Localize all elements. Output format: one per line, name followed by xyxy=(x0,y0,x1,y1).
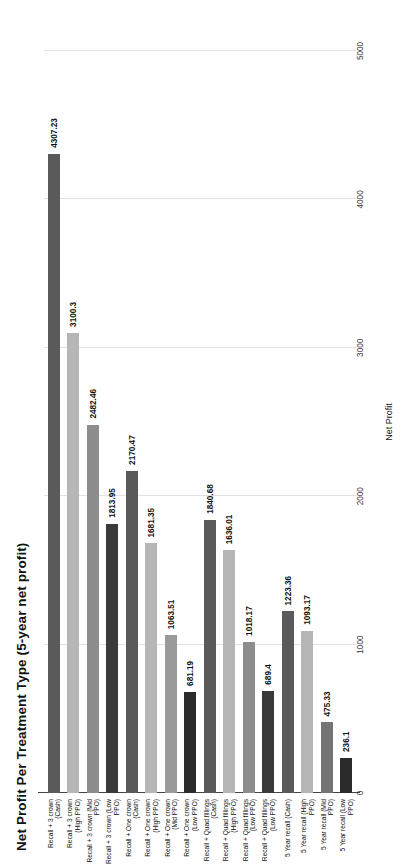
axis-tick-label: 4000 xyxy=(356,190,365,208)
bar-value-label: 1093.17 xyxy=(303,595,312,625)
axis-tick-label: 2000 xyxy=(356,487,365,505)
bar xyxy=(165,635,177,793)
bar-row: 236.1 xyxy=(340,51,352,793)
axis-tick-label: 3000 xyxy=(356,339,365,357)
figure-rotation-wrapper: Net Profit Per Treatment Type (5-year ne… xyxy=(0,0,412,865)
bar-value-label: 475.33 xyxy=(322,691,331,716)
bar xyxy=(126,471,138,793)
bar-row: 1223.36 xyxy=(282,51,294,793)
category-label: Recall + One crown (Low PPO) xyxy=(183,799,198,865)
bar-row: 3100.3 xyxy=(67,51,79,793)
bar-row: 1840.68 xyxy=(204,51,216,793)
bar xyxy=(340,758,352,793)
category-label: Recall + Quad fillings (Low PPO) xyxy=(261,799,276,865)
bar xyxy=(145,544,157,794)
axis-tick-label: 0 xyxy=(356,791,365,796)
bar-value-label: 1813.95 xyxy=(108,488,117,518)
plot-area: 236.1475.331093.171223.36689.41018.17163… xyxy=(44,51,356,793)
bar-row: 2170.47 xyxy=(126,51,138,793)
bar-value-label: 681.19 xyxy=(186,661,195,686)
bar xyxy=(301,631,313,793)
bar xyxy=(243,642,255,793)
bar xyxy=(48,154,60,793)
category-label: 5 Year recall (Cash) xyxy=(284,799,291,865)
bar-value-label: 1840.68 xyxy=(205,484,214,514)
bar xyxy=(204,520,216,793)
bar-row: 1813.95 xyxy=(106,51,118,793)
chart-title: Net Profit Per Treatment Type (5-year ne… xyxy=(14,543,29,851)
bar xyxy=(282,611,294,793)
bar-row: 681.19 xyxy=(184,51,196,793)
category-label: Recall + One crown (Cash) xyxy=(124,799,139,865)
bar-value-label: 4307.23 xyxy=(49,118,58,148)
bar-row: 4307.23 xyxy=(48,51,60,793)
bar xyxy=(223,550,235,793)
category-label: 5 Year recall (Low PPO) xyxy=(339,799,354,865)
bar-value-label: 1636.01 xyxy=(225,515,234,545)
bar-row: 1063.51 xyxy=(165,51,177,793)
bar xyxy=(262,691,274,793)
bar-value-label: 236.1 xyxy=(342,731,351,752)
bar xyxy=(184,692,196,793)
category-label: Recall + 3 crown (High PPO) xyxy=(66,799,81,865)
value-axis-title: Net Profit xyxy=(384,51,394,793)
bar-row: 1681.35 xyxy=(145,51,157,793)
bar-row: 1093.17 xyxy=(301,51,313,793)
bar-value-label: 1063.51 xyxy=(166,600,175,630)
category-label: Recall + Quad fillings (Cash) xyxy=(202,799,217,865)
category-label: Recall + 3 crown (Mid PPO) xyxy=(85,799,100,865)
category-label: Recall + Quad fillings (High PPO) xyxy=(222,799,237,865)
category-label: Recall + 3 crown (Cash) xyxy=(46,799,61,865)
bar-value-label: 689.4 xyxy=(264,664,273,685)
category-label: 5 Year recall (Mid PPO) xyxy=(319,799,334,865)
category-label: 5 Year recall (High PPO) xyxy=(300,799,315,865)
bar-value-label: 1223.36 xyxy=(283,576,292,606)
bar-value-label: 2482.46 xyxy=(88,389,97,419)
bar-row: 2482.46 xyxy=(87,51,99,793)
category-label: Recall + Quad fillings (Low PPO) xyxy=(241,799,256,865)
bar xyxy=(67,333,79,793)
bar-row: 1636.01 xyxy=(223,51,235,793)
chart-figure: Net Profit Per Treatment Type (5-year ne… xyxy=(0,0,412,865)
bar-value-label: 1681.35 xyxy=(147,508,156,538)
category-label: Recall + 3 crown (Low PPO) xyxy=(105,799,120,865)
category-label: Recall + One crown (High PPO) xyxy=(144,799,159,865)
bar-value-label: 2170.47 xyxy=(127,435,136,465)
axis-tick-label: 5000 xyxy=(356,42,365,60)
axis-tick-label: 1000 xyxy=(356,636,365,654)
bar-row: 1018.17 xyxy=(243,51,255,793)
bar-series: 236.1475.331093.171223.36689.41018.17163… xyxy=(44,51,356,793)
category-axis-labels: 5 Year recall (Low PPO)5 Year recall (Mi… xyxy=(44,795,356,865)
category-label: Recall + One crown (Mid PPO) xyxy=(163,799,178,865)
bar-row: 475.33 xyxy=(321,51,333,793)
bar-row: 689.4 xyxy=(262,51,274,793)
bar-value-label: 3100.3 xyxy=(69,302,78,327)
bar-value-label: 1018.17 xyxy=(244,606,253,636)
bar xyxy=(106,524,118,793)
bar xyxy=(87,425,99,793)
bar xyxy=(321,722,333,793)
